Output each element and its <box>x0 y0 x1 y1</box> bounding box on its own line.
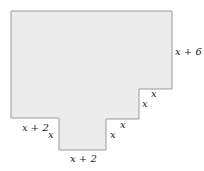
label-left-bottom-edge: x + 2 <box>22 122 49 133</box>
label-right-step-top: x <box>151 88 157 99</box>
label-middle-step-side: x <box>110 129 116 140</box>
label-right-side: x + 6 <box>175 46 202 57</box>
label-left-notch-side: x <box>48 129 54 140</box>
label-right-step-side: x <box>142 98 148 109</box>
label-bottom-edge: x + 2 <box>70 153 97 164</box>
composite-figure: x + 6 x x x x x + 2 x x + 2 <box>0 0 204 171</box>
label-middle-step-top: x <box>120 119 126 130</box>
